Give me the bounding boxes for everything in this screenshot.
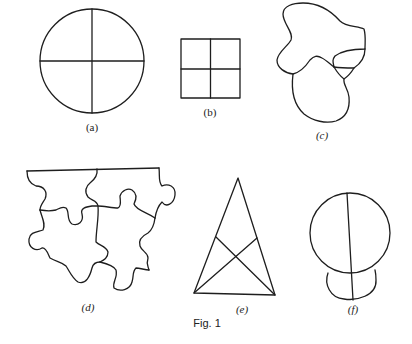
label-f: (f) <box>348 303 359 316</box>
puzzle-left-edge-lower <box>29 210 100 283</box>
large-circle-f <box>310 193 390 273</box>
label-c: (c) <box>316 129 329 142</box>
label-d: (d) <box>82 301 95 314</box>
panel-c: (c) <box>277 3 365 142</box>
puzzle-bottom-right-side <box>139 218 155 270</box>
puzzle-vertical-divider <box>86 169 108 262</box>
panel-a: (a) <box>40 9 144 134</box>
panel-b: (b) <box>181 39 240 119</box>
figure-1: (a) (b) (c) (d) <box>0 0 412 344</box>
region-c-side <box>334 49 365 68</box>
puzzle-right-edge <box>155 168 175 218</box>
region-c-top <box>277 3 365 74</box>
region-c-side-lower <box>344 68 354 79</box>
label-b: (b) <box>204 106 217 119</box>
figure-caption: Fig. 1 <box>193 317 221 329</box>
label-a: (a) <box>86 121 99 134</box>
panel-d: (d) <box>27 168 175 314</box>
region-c-bottom <box>292 67 349 122</box>
label-e: (e) <box>236 303 249 316</box>
puzzle-bottom-right-edge <box>100 262 149 290</box>
bisecting-line-f <box>347 193 353 300</box>
puzzle-left-edge-upper <box>27 171 46 210</box>
panel-e: (e) <box>194 178 275 316</box>
puzzle-top-edge <box>27 168 159 171</box>
panel-f: (f) <box>310 193 390 316</box>
triangle-e <box>194 178 275 295</box>
